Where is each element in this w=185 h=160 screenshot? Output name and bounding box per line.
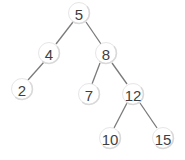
edge-8-to-12 [112, 63, 127, 84]
tree-node-7: 7 [79, 84, 100, 105]
node-label: 4 [45, 46, 53, 63]
edge-12-to-15 [140, 103, 157, 128]
tree-nodes: 54827121015 [12, 3, 174, 149]
tree-node-12: 12 [123, 84, 144, 105]
tree-node-5: 5 [69, 3, 90, 24]
tree-node-10: 10 [100, 128, 121, 149]
node-label: 15 [155, 131, 172, 148]
edge-4-to-2 [28, 62, 44, 80]
tree-node-8: 8 [96, 43, 117, 64]
tree-node-2: 2 [12, 79, 33, 100]
edge-8-to-7 [92, 63, 100, 84]
node-label: 10 [102, 131, 119, 148]
binary-tree-diagram: 54827121015 [0, 0, 185, 160]
node-label: 7 [85, 87, 93, 104]
edge-12-to-10 [114, 103, 127, 128]
edge-5-to-8 [86, 22, 101, 44]
edge-5-to-4 [56, 22, 73, 44]
tree-node-15: 15 [153, 128, 174, 149]
node-label: 2 [18, 82, 26, 99]
node-label: 12 [125, 87, 142, 104]
tree-node-4: 4 [39, 43, 60, 64]
node-label: 5 [75, 6, 83, 23]
tree-edges [28, 22, 157, 128]
node-label: 8 [102, 46, 110, 63]
